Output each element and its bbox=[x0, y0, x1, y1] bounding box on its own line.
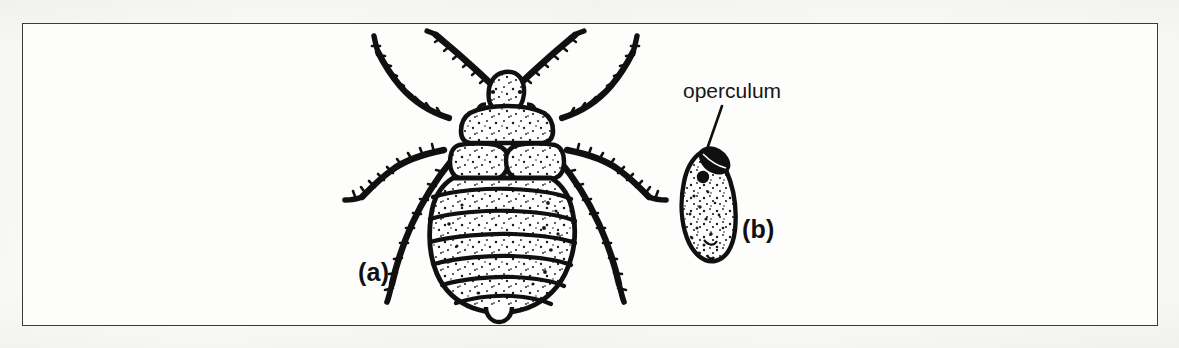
leg-fore-right bbox=[562, 36, 639, 118]
abdomen-outline bbox=[430, 178, 575, 312]
wing-pads bbox=[450, 144, 564, 181]
figure-artwork bbox=[0, 0, 1179, 348]
panel-label-a: (a) bbox=[358, 258, 389, 287]
panel-label-b: (b) bbox=[742, 215, 775, 244]
antenna-left bbox=[427, 31, 492, 85]
wing-pad-left bbox=[450, 144, 508, 181]
leg-fore-left bbox=[372, 36, 449, 118]
egg-dark-spot bbox=[697, 171, 709, 183]
abdomen bbox=[430, 178, 575, 322]
operculum-annotation-label: operculum bbox=[683, 79, 781, 103]
pronotum bbox=[461, 106, 553, 143]
abdomen-tip-lobe bbox=[486, 307, 512, 322]
insect-illustration bbox=[345, 31, 666, 322]
figure-page: (a) (b) operculum bbox=[0, 0, 1179, 348]
antenna-right bbox=[519, 31, 584, 85]
operculum-leader-line bbox=[706, 106, 722, 152]
wing-pad-right bbox=[506, 144, 564, 181]
egg-illustration bbox=[682, 106, 736, 261]
